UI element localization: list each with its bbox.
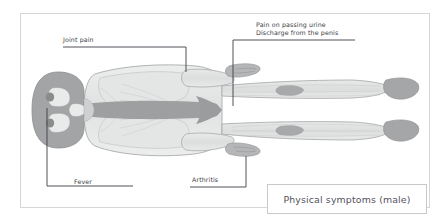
label-fever: Fever	[74, 178, 92, 186]
pectoral-upper	[98, 72, 189, 106]
label-urinary-line2: Discharge from the penis	[256, 29, 338, 37]
label-fever-line1: Fever	[74, 178, 92, 186]
diagram-page: Joint pain Pain on passing urine Dischar…	[0, 0, 448, 224]
label-joint-pain: Joint pain	[63, 36, 94, 44]
spine-bone	[81, 101, 220, 119]
foot-top	[384, 78, 419, 99]
label-urinary-line1: Pain on passing urine	[256, 21, 338, 29]
label-arthritis: Arthritis	[192, 176, 218, 184]
caption-box: Physical symptoms (male)	[267, 184, 427, 214]
caption-label: Physical symptoms (male)	[268, 185, 426, 213]
pectoral-lower	[98, 114, 189, 148]
leg-top	[222, 80, 392, 98]
hand-top	[225, 64, 260, 77]
hand-bottom	[225, 143, 260, 156]
label-urinary: Pain on passing urine Discharge from the…	[256, 21, 338, 36]
label-arthritis-line1: Arthritis	[192, 176, 218, 184]
label-joint-pain-line1: Joint pain	[63, 36, 94, 44]
body-silhouette	[32, 64, 419, 157]
foot-bottom	[384, 120, 419, 141]
